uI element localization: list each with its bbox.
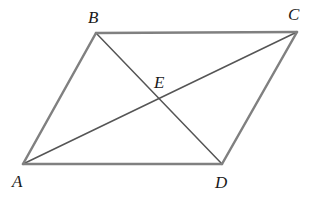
side-BC [96,32,297,33]
geometry-figure [0,0,320,205]
vertex-label-e: E [154,74,164,91]
vertex-label-c: C [288,6,299,23]
vertex-label-a: A [12,173,22,190]
vertex-label-b: B [88,9,98,26]
vertex-label-d: D [215,174,227,191]
